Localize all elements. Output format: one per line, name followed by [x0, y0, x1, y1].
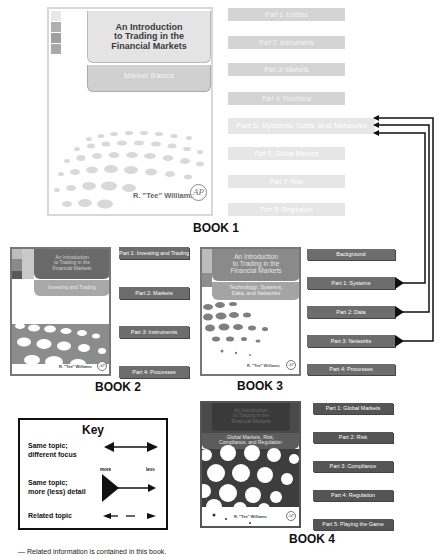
arrowhead-icon — [373, 130, 379, 136]
connector-part5-to-systems — [377, 133, 425, 283]
figure-caption: — Related information is contained in th… — [18, 548, 166, 555]
detail-triangle-icon — [395, 335, 404, 347]
detail-triangle-icon — [395, 277, 404, 289]
arrowhead-icon — [373, 115, 379, 121]
legend-key: Key Same topic; different focus more les… — [18, 418, 168, 530]
related-topic-dashed-arrow-icon — [103, 513, 156, 519]
arrowhead-icon — [373, 122, 379, 128]
more-less-detail-arrow-icon — [102, 474, 156, 502]
detail-triangle-icon — [395, 306, 404, 318]
connector-part5-to-data — [377, 125, 429, 312]
double-headed-arrow-icon — [104, 442, 158, 452]
key-symbols — [20, 420, 170, 532]
